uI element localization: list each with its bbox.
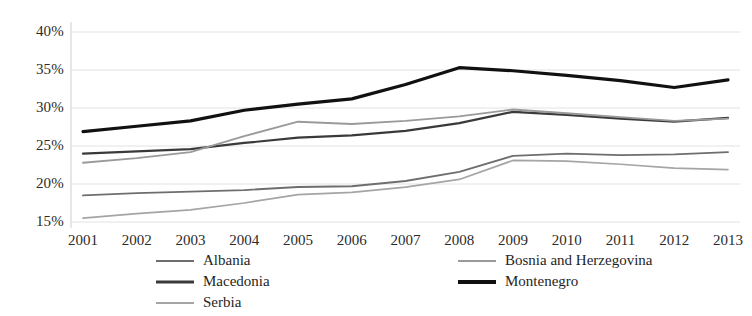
y-tick-label: 35% [6,62,64,77]
line-chart: 40%35%30%25%20%15% 200120022003200420052… [0,0,752,316]
x-tick-label: 2001 [60,233,106,248]
gridlines [71,32,740,222]
x-tick-label: 2009 [490,233,536,248]
legend-item[interactable]: Albania [156,250,270,271]
y-tick-label: 15% [6,214,64,229]
y-tick-label: 20% [6,176,64,191]
x-tick-label: 2005 [275,233,321,248]
legend-swatch-icon [458,276,496,288]
legend-label: Montenegro [505,274,578,289]
legend-swatch-icon [156,255,194,267]
legend-item[interactable]: Serbia [156,292,270,313]
x-tick-label: 2013 [705,233,751,248]
y-axis-tick-labels: 40%35%30%25%20%15% [0,0,64,240]
y-tick-label: 25% [6,138,64,153]
legend-label: Bosnia and Herzegovina [505,253,652,268]
legend-column-left: AlbaniaMacedoniaSerbia [156,250,270,313]
legend-swatch-icon [458,255,496,267]
legend-item[interactable]: Macedonia [156,271,270,292]
x-tick-label: 2008 [436,233,482,248]
legend-swatch-icon [156,297,194,309]
legend-column-right: Bosnia and HerzegovinaMontenegro [458,250,652,292]
x-tick-label: 2004 [221,233,267,248]
legend-label: Serbia [203,295,241,310]
legend-item[interactable]: Bosnia and Herzegovina [458,250,652,271]
legend-label: Macedonia [203,274,270,289]
x-tick-label: 2011 [598,233,644,248]
series-lines [83,68,728,218]
x-tick-label: 2002 [114,233,160,248]
y-tick-label: 30% [6,100,64,115]
chart-legend: AlbaniaMacedoniaSerbia Bosnia and Herzeg… [140,250,740,312]
legend-item[interactable]: Montenegro [458,271,652,292]
legend-swatch-icon [156,276,194,288]
x-tick-label: 2012 [651,233,697,248]
series-line-serbia [83,160,728,218]
legend-label: Albania [203,253,250,268]
x-tick-label: 2007 [383,233,429,248]
y-tick-label: 40% [6,24,64,39]
x-tick-label: 2003 [168,233,214,248]
x-tick-label: 2010 [544,233,590,248]
series-line-montenegro [83,68,728,132]
x-tick-label: 2006 [329,233,375,248]
series-line-albania [83,152,728,195]
